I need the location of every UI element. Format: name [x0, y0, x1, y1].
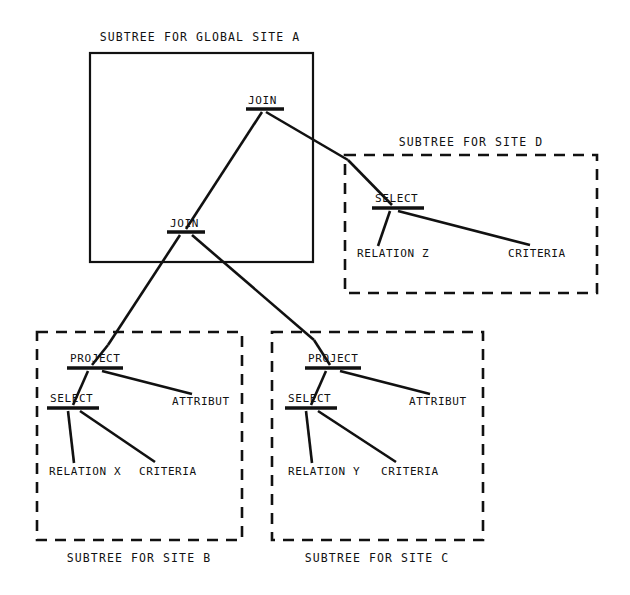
region-caption-site-a: SUBTREE FOR GLOBAL SITE A [100, 30, 301, 44]
node-label-project-c: PROJECT [308, 352, 359, 365]
node-label-join-lower: JOIN [170, 217, 199, 230]
edge-select-c-to-relation-y [306, 411, 312, 463]
node-label-relation-z: RELATION Z [357, 247, 429, 260]
edge-project-c-to-attribut-c [340, 371, 430, 394]
edge-join-top-to-site-d [266, 112, 348, 160]
edge-select-b-to-criteria-b [80, 411, 155, 462]
edge-select-c-to-criteria-y [318, 411, 396, 462]
node-label-relation-x: RELATION X [49, 465, 121, 478]
edge-select-d-to-criteria-d [398, 211, 530, 245]
node-label-select-c: SELECT [288, 392, 331, 405]
node-label-criteria-b: CRITERIA [139, 465, 197, 478]
region-box-site-c [272, 332, 483, 540]
edge-select-b-to-relation-x [68, 411, 74, 463]
edge-select-d-to-relation-z [378, 211, 390, 246]
node-label-select-b: SELECT [50, 392, 93, 405]
node-label-select-d: SELECT [375, 192, 418, 205]
node-label-project-b: PROJECT [70, 352, 121, 365]
region-caption-site-b: SUBTREE FOR SITE B [67, 551, 211, 565]
edge-join-lower-to-site-b [108, 235, 180, 345]
edge-join-top-to-join-lower [186, 112, 262, 229]
query-tree-diagram: JOINJOINSELECTRELATION ZCRITERIAPROJECTS… [0, 0, 630, 595]
node-label-criteria-c: CRITERIA [381, 465, 439, 478]
edge-project-b-to-attribut-b [102, 371, 192, 394]
edge-join-lower-to-site-c [192, 235, 314, 340]
node-label-criteria-d: CRITERIA [508, 247, 566, 260]
node-label-relation-y: RELATION Y [288, 465, 360, 478]
node-label-attribut-c: ATTRIBUT [409, 395, 467, 408]
region-box-site-d [345, 155, 597, 293]
region-caption-site-d: SUBTREE FOR SITE D [399, 135, 543, 149]
node-label-attribut-b: ATTRIBUT [172, 395, 230, 408]
diagram-page: JOINJOINSELECTRELATION ZCRITERIAPROJECTS… [0, 0, 630, 595]
node-label-join-top: JOIN [248, 94, 277, 107]
region-caption-site-c: SUBTREE FOR SITE C [305, 551, 449, 565]
region-box-site-b [37, 332, 242, 540]
tree-edges-layer [68, 112, 530, 463]
